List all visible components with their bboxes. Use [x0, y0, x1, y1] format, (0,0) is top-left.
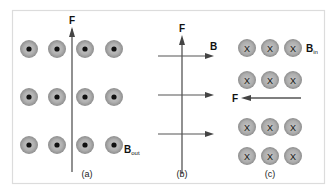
- field-out-dot-icon: [76, 136, 94, 154]
- field-in-cross-icon: X: [238, 147, 256, 165]
- svg-text:X: X: [290, 123, 296, 133]
- field-in-cross-icon: X: [238, 118, 256, 136]
- field-label-b: B: [210, 41, 217, 52]
- svg-text:X: X: [244, 76, 250, 86]
- caption-a: (a): [82, 169, 93, 179]
- force-label-c: F: [232, 93, 238, 104]
- field-in-cross-icon: X: [284, 39, 302, 57]
- field-out-dot-icon: [76, 40, 94, 58]
- field-out-dot-icon: [76, 88, 94, 106]
- field-out-dot-icon: [105, 40, 123, 58]
- field-out-dot-icon: [20, 88, 38, 106]
- field-in-cross-icon: X: [261, 147, 279, 165]
- field-out-dot-icon: [48, 88, 66, 106]
- field-in-cross-icon: X: [261, 71, 279, 89]
- svg-text:X: X: [267, 123, 273, 133]
- field-in-cross-icon: X: [238, 39, 256, 57]
- field-in-cross-icon: X: [284, 147, 302, 165]
- field-in-cross-icon: X: [238, 71, 256, 89]
- svg-text:X: X: [290, 152, 296, 162]
- field-out-dot-icon: [105, 136, 123, 154]
- field-in-cross-icon: X: [284, 118, 302, 136]
- svg-text:X: X: [267, 76, 273, 86]
- force-label-a: F: [69, 15, 75, 26]
- field-out-dot-icon: [48, 136, 66, 154]
- caption-c: (c): [265, 169, 276, 179]
- svg-text:X: X: [244, 123, 250, 133]
- svg-text:X: X: [290, 76, 296, 86]
- field-out-dot-icon: [20, 40, 38, 58]
- force-label-b: F: [179, 23, 185, 34]
- svg-text:X: X: [290, 44, 296, 54]
- svg-text:X: X: [267, 44, 273, 54]
- field-in-cross-icon: X: [261, 118, 279, 136]
- svg-text:X: X: [267, 152, 273, 162]
- field-in-cross-icon: X: [284, 71, 302, 89]
- magnetic-force-figure: F Bout (a) F B (b) X X X X X X X: [0, 0, 332, 194]
- field-out-dot-icon: [48, 40, 66, 58]
- field-out-dot-icon: [20, 136, 38, 154]
- svg-text:X: X: [244, 152, 250, 162]
- field-out-dot-icon: [105, 88, 123, 106]
- caption-b: (b): [177, 169, 188, 179]
- svg-text:X: X: [244, 44, 250, 54]
- field-in-cross-icon: X: [261, 39, 279, 57]
